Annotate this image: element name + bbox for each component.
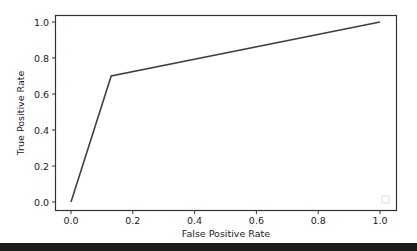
x-tick-label: 0.2: [125, 215, 140, 226]
roc-figure: 0.00.20.40.60.81.0 0.00.20.40.60.81.0 Fa…: [0, 0, 417, 251]
y-tick-label: 0.6: [34, 89, 49, 100]
x-tick-label: 0.6: [249, 215, 264, 226]
empty-legend-box: [382, 196, 389, 203]
x-tick-label: 0.0: [63, 215, 78, 226]
y-tick-label: 0.8: [34, 53, 49, 64]
roc-chart: 0.00.20.40.60.81.0 0.00.20.40.60.81.0 Fa…: [0, 0, 417, 251]
x-tick-label: 1.0: [372, 215, 387, 226]
plot-area-frame: [56, 16, 397, 211]
x-tick-label: 0.8: [311, 215, 326, 226]
y-tick-label: 1.0: [34, 17, 49, 28]
x-tick-label: 0.4: [187, 215, 202, 226]
bottom-divider: [0, 243, 417, 251]
y-tick-label: 0.4: [34, 125, 49, 136]
x-axis-label: False Positive Rate: [182, 228, 270, 239]
y-axis-label: True Positive Rate: [15, 71, 26, 157]
y-tick-label: 0.0: [34, 197, 49, 208]
x-axis-ticks: 0.00.20.40.60.81.0: [63, 211, 387, 227]
y-tick-label: 0.2: [34, 161, 49, 172]
y-axis-ticks: 0.00.20.40.60.81.0: [34, 17, 56, 208]
roc-curve-line: [71, 22, 380, 202]
